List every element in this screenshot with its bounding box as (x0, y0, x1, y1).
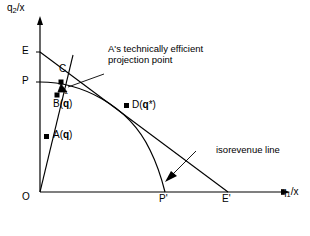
point-label-B-accent: ˆ (65, 92, 68, 101)
y-axis-label-tail: /x (17, 2, 25, 13)
point-marker-C (59, 80, 64, 85)
axis-mark-E: E (22, 45, 29, 57)
point-marker-A (44, 134, 49, 139)
point-marker-D (124, 103, 129, 108)
x-axis-label: q1/x (281, 186, 299, 198)
x-axis-label-sub: 1 (287, 190, 291, 199)
annotation-leader-isorevenue (165, 151, 196, 182)
point-label-A: A(q) (53, 129, 72, 141)
point-label-C: C (59, 63, 66, 75)
point-label-A-prefix: A( (53, 129, 63, 140)
annotation-isorevenue-line: isorevenue line (216, 145, 280, 156)
axis-mark-P-prime: P' (159, 193, 168, 205)
diagram-figure: q2/x q1/x O E P P' E' C B(ˆq) A(q) D(q*)… (0, 0, 310, 236)
diagram-canvas (0, 0, 310, 236)
point-label-D-suffix: *) (149, 99, 156, 110)
point-marker-B (55, 93, 60, 98)
origin-label: O (22, 191, 30, 203)
y-axis (37, 16, 43, 192)
axis-mark-E-prime: E' (222, 193, 231, 205)
y-axis-label: q2/x (7, 2, 25, 14)
x-axis-label-tail: /x (291, 186, 299, 197)
annotation-leader-projection (68, 74, 104, 87)
point-label-B: B(ˆq) (53, 98, 72, 110)
annotation-projection-line2: projection point (108, 55, 203, 66)
point-label-B-var-wrap: ˆq (63, 98, 69, 110)
point-label-B-suffix: ) (69, 98, 72, 109)
ray-from-origin (40, 55, 73, 192)
point-label-D-prefix: D( (132, 99, 143, 110)
x-axis-label-var: q (281, 186, 287, 197)
point-label-A-suffix: ) (69, 129, 72, 140)
y-axis-label-sub: 2 (13, 6, 17, 15)
annotation-projection-point: A's technically efficient projection poi… (108, 44, 203, 66)
point-label-D: D(q*) (132, 99, 156, 111)
axis-mark-P: P (22, 75, 29, 87)
point-label-B-prefix: B( (53, 98, 63, 109)
y-axis-label-var: q (7, 2, 13, 13)
